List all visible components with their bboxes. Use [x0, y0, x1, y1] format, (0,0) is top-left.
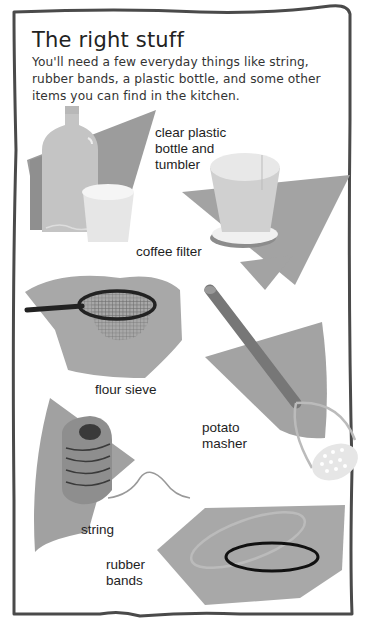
- label-flour-sieve: flour sieve: [95, 382, 157, 398]
- illustrations: [0, 0, 365, 626]
- bottle-illustration: [27, 106, 156, 242]
- label-potato-masher: potato masher: [202, 420, 247, 452]
- label-bottle: clear plastic bottle and tumbler: [155, 125, 226, 173]
- label-rubber-bands: rubber bands: [106, 557, 145, 589]
- label-string: string: [81, 522, 114, 538]
- label-coffee-filter: coffee filter: [136, 244, 202, 260]
- rubber-bands-illustration: [157, 501, 345, 605]
- potato-masher-illustration: [204, 255, 364, 488]
- flour-sieve-illustration: [25, 276, 182, 378]
